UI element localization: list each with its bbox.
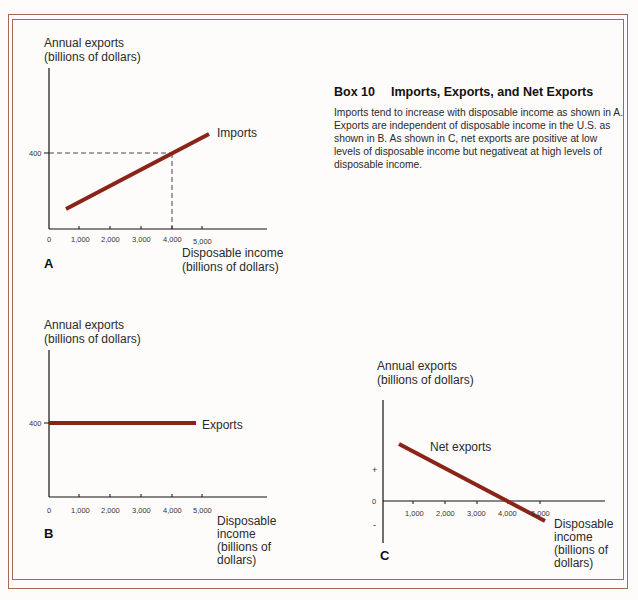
chart-c-xtick-1000: 1,000: [405, 509, 424, 518]
chart-a-xlabel-1: Disposable income: [182, 246, 283, 260]
chart-b-ytick-400: 400: [29, 419, 42, 428]
chart-c-xlabel-2: income: [554, 530, 593, 544]
chart-b-xtick-3000: 3,000: [132, 506, 151, 515]
chart-b-xtick-1000: 1,000: [71, 506, 90, 515]
chart-b-xtick-4000: 4,000: [163, 506, 182, 515]
chart-c-xtick-4000: 4,000: [498, 509, 517, 518]
panel-letter-b: B: [44, 526, 53, 541]
chart-c-ylabel-1: Annual exports: [377, 359, 457, 373]
chart-b-xtick-0: 0: [47, 506, 51, 515]
chart-b-xlabel-3: (billions of: [217, 540, 271, 554]
panel-letter-c: C: [380, 548, 389, 563]
chart-a-xtick-4000: 4,000: [163, 235, 182, 244]
chart-a-ytick-400: 400: [29, 149, 42, 158]
imports-line: [66, 134, 209, 209]
chart-b-xtick-2000: 2,000: [101, 506, 120, 515]
chart-c-xtick-3000: 3,000: [467, 509, 486, 518]
chart-c-xlabel-3: (billions of: [554, 543, 608, 557]
panel-letter-a: A: [44, 256, 53, 271]
chart-b-xlabel-1: Disposable: [217, 514, 276, 528]
chart-c-ytick-zero: 0: [372, 497, 376, 506]
chart-a-ylabel-2: (billions of dollars): [44, 50, 141, 64]
chart-a-xtick-1000: 1,000: [71, 235, 90, 244]
chart-a-xlabel-2: (billions of dollars): [182, 260, 279, 274]
chart-c-xtick-2000: 2,000: [436, 509, 455, 518]
chart-b-ylabel-2: (billions of dollars): [44, 332, 141, 346]
imports-label: Imports: [217, 126, 257, 140]
chart-a-xtick-3000: 3,000: [132, 235, 151, 244]
chart-a-xtick-5000: 5,000: [193, 237, 212, 246]
chart-a: [44, 68, 267, 229]
chart-c-xlabel-1: Disposable: [554, 517, 613, 531]
net-exports-label: Net exports: [430, 440, 491, 454]
chart-b-xlabel-2: income: [217, 527, 256, 541]
chart-a-xtick-2000: 2,000: [101, 235, 120, 244]
exports-label: Exports: [202, 418, 243, 432]
chart-c-xtick-5000: 5,000: [531, 509, 550, 518]
chart-c-ylabel-2: (billions of dollars): [377, 373, 474, 387]
chart-b-ylabel-1: Annual exports: [44, 318, 124, 332]
chart-c-xlabel-4: dollars): [554, 556, 593, 570]
chart-b-xtick-5000: 5,000: [193, 506, 212, 515]
chart-c-ytick-minus: -: [373, 520, 376, 530]
chart-c-ytick-plus: +: [372, 465, 377, 475]
chart-a-ylabel-1: Annual exports: [44, 36, 124, 50]
chart-b-xlabel-4: dollars): [217, 553, 256, 567]
chart-a-xtick-0: 0: [47, 235, 51, 244]
